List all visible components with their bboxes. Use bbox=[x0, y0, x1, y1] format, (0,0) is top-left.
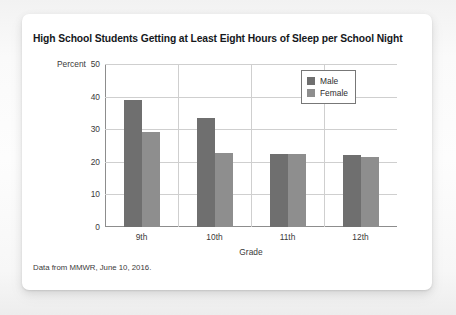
source-note: Data from MMWR, June 10, 2016. bbox=[33, 263, 151, 272]
x-axis-title: Grade bbox=[105, 247, 397, 257]
legend-label-female: Female bbox=[320, 88, 348, 98]
legend-item-female: Female bbox=[307, 87, 348, 99]
y-axis-tick-label: 40 bbox=[91, 92, 100, 102]
x-axis-tick-label: 10th bbox=[206, 232, 222, 242]
y-axis-tick-label: 20 bbox=[91, 157, 100, 167]
y-axis-tick-label: 50 bbox=[91, 59, 100, 69]
legend-item-male: Male bbox=[307, 75, 348, 87]
bar-group-bars bbox=[105, 64, 178, 227]
x-axis-tick-label: 9th bbox=[136, 232, 148, 242]
y-axis-title: Percent bbox=[57, 59, 86, 69]
legend-swatch-female-icon bbox=[307, 89, 315, 97]
bar-group: 9th bbox=[105, 64, 178, 227]
y-axis-tick-label: 30 bbox=[91, 124, 100, 134]
bar-female-12th bbox=[361, 157, 379, 227]
chart-legend: Male Female bbox=[301, 70, 356, 104]
y-axis-tick-label: 10 bbox=[91, 189, 100, 199]
bar-male-10th bbox=[197, 118, 215, 227]
bar-female-9th bbox=[142, 132, 160, 227]
bar-group: 10th bbox=[178, 64, 251, 227]
legend-swatch-male-icon bbox=[307, 77, 315, 85]
page-title: High School Students Getting at Least Ei… bbox=[33, 33, 425, 44]
legend-label-male: Male bbox=[320, 76, 338, 86]
bar-male-12th bbox=[343, 155, 361, 227]
x-axis-tick-label: 12th bbox=[352, 232, 368, 242]
bar-female-11th bbox=[288, 154, 306, 227]
bar-group-bars bbox=[178, 64, 251, 227]
screenshot-page: High School Students Getting at Least Ei… bbox=[0, 0, 456, 315]
x-axis-tick-label: 11th bbox=[280, 232, 296, 242]
bar-male-11th bbox=[270, 154, 288, 227]
y-axis-tick-label: 0 bbox=[95, 222, 100, 232]
bar-male-9th bbox=[124, 100, 142, 227]
bar-female-10th bbox=[215, 153, 233, 227]
